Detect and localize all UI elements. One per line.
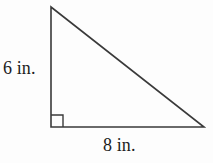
- right-triangle-figure: 6 in. 8 in.: [0, 0, 213, 163]
- triangle-shape: [51, 7, 204, 127]
- right-angle-marker-icon: [51, 115, 63, 127]
- horizontal-leg-length-label: 8 in.: [103, 136, 136, 154]
- vertical-leg-length-label: 6 in.: [3, 59, 36, 77]
